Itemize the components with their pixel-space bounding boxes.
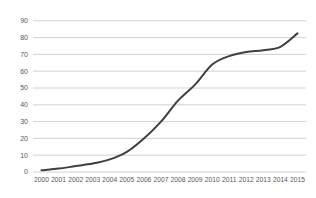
x-axis-tick-label: 2004 [102,176,117,183]
y-axis-tick-label: 60 [20,68,28,75]
x-axis-tick-label: 2010 [205,176,220,183]
x-axis-tick-label: 2012 [239,176,254,183]
chart-canvas: 0102030405060708090200020012002200320042… [0,0,316,198]
y-axis-tick-label: 20 [20,135,28,142]
y-axis-tick-label: 90 [20,17,28,24]
x-axis-tick-label: 2014 [273,176,288,183]
y-axis-tick-label: 50 [20,84,28,91]
x-axis-tick-label: 2001 [51,176,66,183]
x-axis-tick-label: 2011 [222,176,237,183]
y-axis-tick-label: 0 [24,168,28,175]
x-axis-tick-label: 2000 [34,176,49,183]
x-axis-tick-label: 2005 [119,176,134,183]
y-axis-tick-label: 30 [20,118,28,125]
y-axis-tick-label: 70 [20,51,28,58]
x-axis-tick-label: 2002 [68,176,83,183]
x-axis-tick-label: 2015 [290,176,305,183]
y-axis-tick-label: 40 [20,101,28,108]
x-axis-tick-label: 2006 [136,176,151,183]
x-axis-tick-label: 2009 [188,176,203,183]
x-axis-tick-label: 2007 [154,176,169,183]
x-axis-tick-label: 2013 [256,176,271,183]
x-axis-tick-label: 2008 [171,176,186,183]
line-chart: 0102030405060708090200020012002200320042… [0,0,316,198]
x-axis-tick-label: 2003 [85,176,100,183]
y-axis-tick-label: 10 [20,152,28,159]
y-axis-tick-label: 80 [20,34,28,41]
